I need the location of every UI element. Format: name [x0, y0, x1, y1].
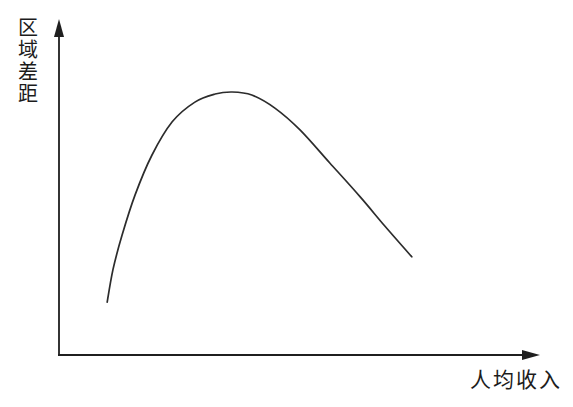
y-axis-arrowhead-icon: [54, 19, 64, 37]
kuznets-curve-chart: 区域差距 人均收入: [0, 0, 573, 407]
curve-line: [107, 92, 412, 302]
plot-svg: [0, 0, 573, 407]
x-axis-label: 人均收入: [470, 363, 562, 393]
y-axis-label: 区域差距: [14, 17, 37, 105]
x-axis-arrowhead-icon: [522, 350, 540, 360]
